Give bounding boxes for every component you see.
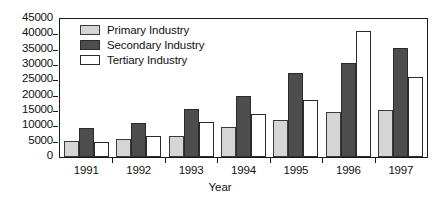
bar-tertiary (251, 114, 266, 157)
bar-primary (273, 120, 288, 157)
bar-chart: 0500010000150002000025000300003500040000… (0, 0, 440, 201)
bar-group (322, 19, 374, 157)
x-tick-label: 1993 (179, 164, 204, 176)
bar-tertiary (94, 142, 109, 157)
bar-secondary (341, 63, 356, 157)
y-tick-mark (53, 126, 58, 127)
y-tick-label: 10000 (22, 120, 53, 132)
bar-secondary (79, 128, 94, 157)
y-tick-label: 15000 (22, 104, 53, 116)
x-tick-mark (322, 158, 323, 163)
bar-group (217, 19, 269, 157)
bar-primary (169, 136, 184, 157)
bar-tertiary (356, 31, 371, 157)
x-tick-mark (270, 158, 271, 163)
x-tick-label: 1996 (336, 164, 361, 176)
y-tick-mark (53, 96, 58, 97)
x-tick-mark (112, 158, 113, 163)
y-axis: 0500010000150002000025000300003500040000… (0, 18, 53, 158)
bar-secondary (131, 123, 146, 157)
y-tick-mark (53, 111, 58, 112)
x-tick-mark (165, 158, 166, 163)
bar-secondary (236, 96, 251, 157)
bar-primary (64, 141, 79, 157)
y-tick-mark (53, 34, 58, 35)
x-tick-label: 1994 (231, 164, 256, 176)
bar-primary (221, 127, 236, 157)
y-tick-label: 20000 (22, 89, 53, 101)
y-tick-label: 35000 (22, 43, 53, 55)
chart-legend: Primary Industry Secondary Industry Tert… (80, 23, 204, 68)
x-axis-title: Year (0, 181, 440, 193)
x-tick-label: 1992 (126, 164, 151, 176)
x-tick-mark (375, 158, 376, 163)
x-tick-label: 1995 (284, 164, 309, 176)
y-tick-mark (53, 80, 58, 81)
y-tick-label: 45000 (22, 12, 53, 24)
bar-secondary (288, 73, 303, 157)
bar-secondary (184, 109, 199, 157)
y-tick-label: 5000 (28, 135, 53, 147)
bar-primary (116, 139, 131, 157)
bar-tertiary (146, 136, 161, 157)
y-tick-mark (53, 65, 58, 66)
bar-secondary (393, 48, 408, 157)
x-tick-label: 1991 (74, 164, 99, 176)
legend-label-primary: Primary Industry (107, 24, 189, 36)
y-tick-mark (53, 142, 58, 143)
legend-swatch-tertiary-icon (80, 55, 100, 65)
y-tick-label: 0 (47, 150, 53, 162)
legend-swatch-primary-icon (80, 25, 100, 35)
bar-tertiary (303, 100, 318, 157)
legend-swatch-secondary-icon (80, 40, 100, 50)
bar-tertiary (408, 77, 423, 157)
bar-primary (326, 112, 341, 157)
y-tick-label: 25000 (22, 74, 53, 86)
x-tick-mark (217, 158, 218, 163)
bar-group (375, 19, 427, 157)
y-tick-label: 40000 (22, 28, 53, 40)
legend-item-secondary: Secondary Industry (80, 38, 204, 52)
bar-group (270, 19, 322, 157)
y-tick-label: 30000 (22, 58, 53, 70)
legend-item-tertiary: Tertiary Industry (80, 53, 204, 67)
legend-label-secondary: Secondary Industry (107, 39, 204, 51)
y-tick-mark (53, 50, 58, 51)
x-tick-label: 1997 (388, 164, 413, 176)
legend-label-tertiary: Tertiary Industry (107, 54, 187, 66)
legend-item-primary: Primary Industry (80, 23, 204, 37)
bar-primary (378, 110, 393, 157)
bar-tertiary (199, 122, 214, 157)
